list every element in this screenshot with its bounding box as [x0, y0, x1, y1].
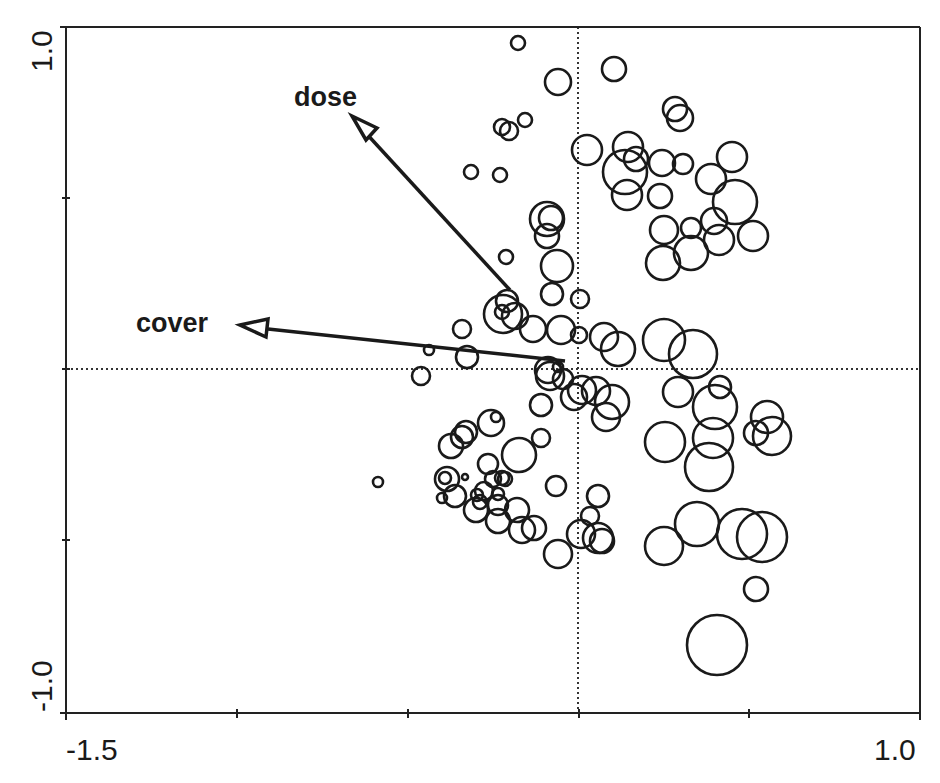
sample-point	[439, 472, 451, 484]
sample-point	[650, 216, 678, 244]
sample-point	[583, 523, 613, 553]
sample-point	[530, 394, 552, 416]
x-ticks	[66, 709, 920, 720]
sample-point	[753, 417, 791, 455]
sample-point	[572, 135, 602, 165]
y-tick-label-max: 1.0	[25, 30, 58, 72]
sample-point	[737, 512, 787, 562]
sample-point	[511, 36, 525, 50]
arrowhead-icon	[352, 116, 377, 140]
sample-point	[601, 332, 635, 366]
sample-point	[439, 434, 463, 458]
sample-point	[663, 377, 693, 407]
sample-point	[546, 476, 566, 496]
sample-point	[675, 502, 719, 546]
arrowhead-icon	[240, 319, 268, 337]
zero-lines	[66, 27, 920, 713]
sample-point	[545, 69, 571, 95]
sample-point	[518, 113, 532, 127]
sample-point	[453, 320, 471, 338]
sample-point	[673, 154, 693, 174]
ordination-biplot: dose cover -1.5 1.0 1.0 -1.0	[0, 0, 940, 783]
sample-point	[412, 367, 430, 385]
sample-point	[738, 221, 768, 251]
sample-point	[744, 577, 768, 601]
sample-point	[464, 165, 478, 179]
sample-point	[499, 250, 513, 264]
sample-point	[493, 168, 507, 182]
sample-point	[612, 180, 642, 210]
sample-point	[535, 224, 559, 248]
sample-point	[502, 438, 536, 472]
sample-point	[685, 443, 733, 491]
sample-point	[373, 477, 383, 487]
sample-point	[649, 150, 675, 176]
vector-dose: dose	[294, 82, 510, 290]
sample-point	[646, 246, 680, 280]
sample-point	[491, 412, 501, 422]
sample-point	[667, 105, 693, 131]
sample-point	[602, 57, 626, 81]
vector-label-dose: dose	[294, 82, 357, 112]
sample-point	[571, 327, 587, 343]
sample-point	[544, 540, 572, 568]
sample-point	[462, 474, 468, 480]
sample-point	[500, 122, 518, 140]
sample-point	[541, 250, 573, 282]
sample-point	[648, 184, 672, 208]
sample-point	[547, 316, 575, 344]
sample-point	[592, 403, 620, 431]
sample-points	[373, 36, 791, 675]
sample-point	[498, 472, 512, 486]
sample-point	[522, 516, 546, 540]
sample-point	[541, 283, 563, 305]
sample-point	[532, 429, 550, 447]
sample-point	[587, 485, 609, 507]
x-tick-label-min: -1.5	[66, 733, 118, 766]
sample-point	[437, 493, 447, 503]
sample-point	[645, 422, 685, 462]
sample-point	[520, 316, 546, 342]
sample-point	[464, 498, 488, 522]
y-tick-label-min: -1.0	[25, 660, 58, 712]
sample-point	[571, 290, 589, 308]
axes: -1.5 1.0 1.0 -1.0	[25, 27, 920, 766]
sample-point	[669, 330, 717, 378]
vector-label-cover: cover	[136, 308, 209, 338]
x-tick-label-max: 1.0	[874, 733, 916, 766]
sample-point	[687, 615, 747, 675]
sample-point	[704, 225, 734, 255]
sample-point	[536, 362, 564, 390]
